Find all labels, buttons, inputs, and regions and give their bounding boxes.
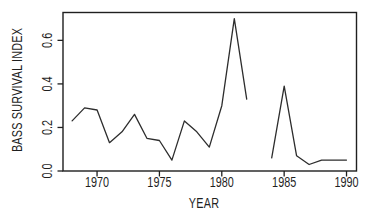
plot-area: 197019751980198519900.00.20.40.6	[38, 13, 358, 191]
line-chart: 197019751980198519900.00.20.40.6 BASS SU…	[0, 0, 377, 219]
x-tick-label: 1990	[334, 173, 358, 190]
x-tick-label: 1970	[85, 173, 109, 190]
y-tick-label: 0.6	[38, 33, 55, 48]
x-axis-label: YEAR	[189, 194, 219, 211]
x-tick-label: 1985	[272, 173, 296, 190]
y-tick-label: 0.2	[38, 120, 55, 135]
data-line-1968-1982	[72, 19, 247, 161]
y-axis-label: BASS SURVIVAL INDEX	[8, 28, 25, 152]
y-tick-label: 0.0	[38, 163, 55, 178]
data-line-1984-1990	[272, 86, 347, 164]
x-tick-label: 1975	[147, 173, 171, 190]
x-tick-label: 1980	[210, 173, 234, 190]
bass-survival-figure: 197019751980198519900.00.20.40.6 BASS SU…	[0, 0, 377, 219]
y-tick-label: 0.4	[38, 76, 55, 92]
